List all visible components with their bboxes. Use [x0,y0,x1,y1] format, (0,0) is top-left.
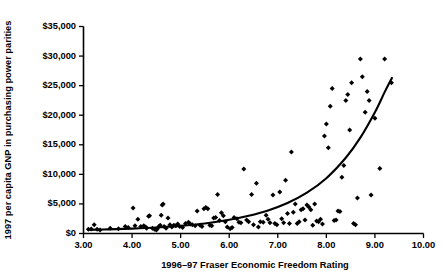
data-point [241,167,246,172]
data-point [360,74,365,79]
data-point [363,110,368,115]
x-tick-label: 6.00 [220,240,238,250]
data-point [285,211,290,216]
data-point [249,192,254,197]
y-tick-label: $5,000 [48,198,76,208]
data-point [195,209,200,214]
data-points [86,57,394,233]
y-axis-title: 1997 per capita GNP in purchasing power … [3,21,13,240]
x-tick-label: 3.00 [74,240,92,250]
data-point [293,201,298,206]
data-point [377,166,382,171]
data-point [328,104,333,109]
chart-figure: $0$5,000$10,000$15,000$20,000$25,000$30,… [0,0,444,278]
x-tick-label: 9.00 [366,240,384,250]
data-point [287,221,292,226]
x-tick-label: 5.00 [172,240,190,250]
data-point [320,222,325,227]
y-tick-label: $20,000 [42,110,76,120]
data-point [289,149,294,154]
data-point [347,128,352,133]
data-point [291,210,296,215]
data-point [322,133,327,138]
data-point [256,224,261,229]
data-point [159,213,164,218]
data-point [135,217,140,222]
data-point [251,222,256,227]
data-point [339,175,344,180]
y-tick-label: $15,000 [42,139,76,149]
data-point [283,178,288,183]
x-tick-label: 10.00 [412,240,435,250]
y-tick-label: $35,000 [42,21,76,31]
data-point [215,192,220,197]
data-point [312,201,317,206]
data-point [369,193,374,198]
data-point [358,57,363,62]
data-point [302,217,307,222]
y-tick-label: $0 [66,228,76,238]
data-point [92,222,97,227]
data-point [264,213,269,218]
x-tick-label: 4.00 [123,240,141,250]
scatter-plot: $0$5,000$10,000$15,000$20,000$25,000$30,… [0,0,444,278]
data-point [131,206,136,211]
data-point [166,216,171,221]
data-point [324,122,329,127]
y-tick-label: $30,000 [42,51,76,61]
data-point [349,80,354,85]
data-point [254,181,259,186]
data-point [281,220,286,225]
y-tick-label: $10,000 [42,169,76,179]
y-tick-label: $25,000 [42,80,76,90]
data-point [382,57,387,62]
data-point [367,98,372,103]
data-point [279,216,284,221]
data-point [345,92,350,97]
data-point [310,223,315,228]
data-point [343,98,348,103]
x-tick-label: 8.00 [317,240,335,250]
y-axis-tick-labels: $0$5,000$10,000$15,000$20,000$25,000$30,… [42,21,76,238]
data-point [270,193,275,198]
data-point [277,190,282,195]
x-tick-label: 7.00 [269,240,287,250]
data-point [355,196,360,201]
data-point [341,163,346,168]
data-point [330,86,335,91]
x-axis-tick-labels: 3.004.005.006.007.008.009.0010.00 [74,240,435,250]
data-point [326,145,331,150]
x-axis-title: 1996–97 Fraser Economic Freedom Rating [161,260,349,270]
data-point [365,89,370,94]
